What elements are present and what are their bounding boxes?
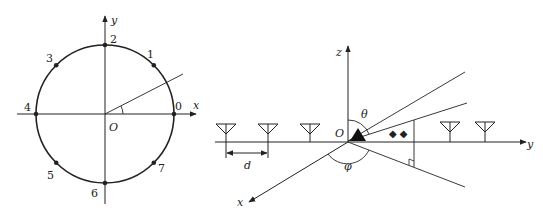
- element-label-7: 7: [158, 162, 165, 175]
- angle-arc: [121, 106, 123, 114]
- element-dot-5: [54, 161, 59, 166]
- antenna-3: [300, 124, 320, 142]
- y-axis-label: y: [526, 138, 534, 151]
- phi-label: φ: [344, 160, 352, 173]
- element-label-5: 5: [47, 169, 54, 182]
- antenna-5: [475, 122, 495, 142]
- linear-array-diagram: ◆ ◆ d z y x O: [215, 46, 534, 209]
- element-label-1: 1: [147, 48, 154, 61]
- x-axis-label: x: [237, 196, 244, 209]
- antenna-4: [440, 122, 460, 142]
- element-dot-6: [103, 181, 108, 186]
- element-label-4: 4: [24, 101, 31, 114]
- spacing-label: d: [244, 159, 251, 172]
- element-dot-3: [54, 63, 59, 68]
- y-axis-label: y: [110, 14, 118, 27]
- element-dot-1: [152, 63, 157, 68]
- x-axis: [249, 142, 348, 202]
- wave-ray-lower: [348, 142, 465, 187]
- circular-array-diagram: 0 1 2 3 4 5 6 7 x y O: [17, 14, 200, 204]
- diagram-canvas: 0 1 2 3 4 5 6 7 x y O ◆ ◆: [0, 0, 543, 216]
- x-axis-label: x: [193, 99, 200, 112]
- signal-source-triangle: [350, 128, 366, 141]
- element-label-3: 3: [46, 52, 53, 65]
- element-label-2: 2: [110, 33, 117, 46]
- element-dot-7: [152, 161, 157, 166]
- z-axis-label: z: [335, 46, 342, 59]
- element-dot-4: [34, 112, 39, 117]
- origin-label: O: [335, 127, 344, 140]
- origin-label: O: [109, 121, 118, 134]
- element-dot-2: [103, 43, 108, 48]
- continuation-dots: ◆ ◆: [389, 128, 408, 139]
- element-label-6: 6: [91, 187, 98, 200]
- element-label-0: 0: [175, 100, 182, 113]
- theta-label: θ: [361, 108, 368, 121]
- right-angle-marker: [409, 159, 414, 165]
